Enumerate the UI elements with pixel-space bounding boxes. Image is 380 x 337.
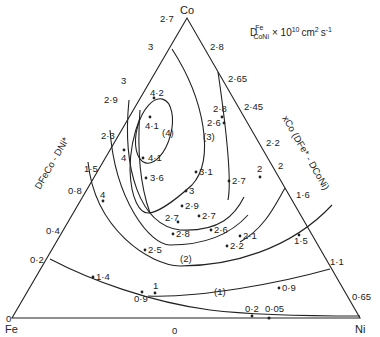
left-tick: 0·8 (68, 185, 82, 196)
point-label: 2·7 (232, 175, 246, 186)
point-label: 4 (100, 189, 105, 200)
point-label: 2·6 (214, 224, 228, 235)
right-tick: 2·8 (210, 41, 224, 52)
left-tick: 3 (121, 75, 126, 86)
contour-3-right (218, 72, 229, 200)
right-tick: 2·2 (266, 137, 280, 148)
point-label: 2·8 (176, 228, 190, 239)
contour-1-main (148, 269, 330, 296)
contour-label-4: (4) (162, 127, 174, 138)
point-label: 4·1 (148, 152, 162, 163)
data-points: 4·2 4·1 4·1 4 3·6 3·1 3 2·9 2·7 2·7 2·8 … (92, 87, 308, 320)
right-tick: 1·1 (330, 256, 344, 267)
left-tick: 2·7 (160, 13, 174, 24)
left-tick: 2·9 (104, 94, 118, 105)
point-label: 3·1 (199, 166, 213, 177)
right-axis-title: xCo (DFe* - DCoNi) (280, 114, 331, 192)
point-label: 1·5 (294, 235, 308, 246)
point-label: 2·5 (148, 244, 162, 255)
left-tick: 0·2 (30, 254, 44, 265)
point-label: 3 (189, 185, 194, 196)
point-label: 1 (153, 280, 158, 291)
point-label: 2·9 (185, 200, 199, 211)
right-tick: 2·65 (228, 73, 247, 84)
contour-label-2: (2) (180, 253, 192, 264)
point-label: 2·8 (213, 103, 227, 114)
point-label: 3·6 (150, 172, 164, 183)
chart-title: DFeCoNi× 1010cm2s-1 (250, 24, 332, 40)
left-tick: 0·4 (46, 225, 60, 236)
vertex-co: Co (180, 4, 194, 16)
ternary-diagram: Co Fe Ni DFeCoNi× 1010cm2s-1 2·7 3 3 2·9… (0, 0, 380, 337)
point-label: 2·6 (207, 117, 221, 128)
left-axis-title: DFeCo - DNi* (32, 135, 71, 191)
point-label: 4·1 (145, 120, 159, 131)
right-tick: 0·65 (352, 291, 371, 302)
left-tick: 0 (6, 313, 11, 324)
right-tick: 1·6 (296, 189, 310, 200)
point-label: 2·1 (243, 230, 257, 241)
point-label: 0·9 (134, 293, 148, 304)
contour-label-3: (3) (203, 131, 215, 142)
point-label: 0·05 (265, 303, 284, 314)
contour-0 (50, 259, 360, 316)
point-label: 4·2 (150, 87, 164, 98)
point-label: 0·2 (245, 303, 259, 314)
ternary-triangle (12, 18, 360, 318)
point-label: 2·7 (165, 212, 179, 223)
left-tick: 2·3 (101, 130, 115, 141)
right-tick: 2 (278, 160, 283, 171)
right-tick: 2·45 (244, 101, 263, 112)
point-label: 2·2 (230, 240, 244, 251)
point-label: 0·9 (282, 282, 296, 293)
contour-label-1: (1) (214, 286, 226, 297)
left-tick: 1·5 (84, 163, 98, 174)
point-label: 2 (257, 163, 262, 174)
vertex-ni: Ni (355, 323, 365, 335)
left-tick: 3 (148, 41, 153, 52)
point-label: 1·4 (96, 271, 110, 282)
point-label: 2·7 (202, 210, 216, 221)
vertex-fe: Fe (5, 323, 18, 335)
bottom-tick: 0 (172, 325, 177, 336)
point-label: 4 (121, 152, 126, 163)
